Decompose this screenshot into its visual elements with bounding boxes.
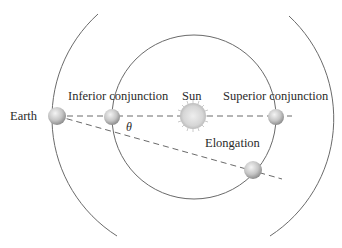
superior-conjunction-label: Superior conjunction <box>223 89 329 103</box>
elongation-diagram: Earth Inferior conjunction Sun Superior … <box>0 0 342 248</box>
sun-icon <box>180 103 206 129</box>
elongation-label: Elongation <box>205 136 261 150</box>
theta-angle-label: θ <box>126 120 132 134</box>
elongation-planet-icon <box>244 161 262 179</box>
earth-label: Earth <box>10 109 38 123</box>
earth-planet-icon <box>48 107 66 125</box>
earth-orbit-right-arc <box>270 16 334 236</box>
superior-conjunction-planet-icon <box>268 109 284 125</box>
inferior-conjunction-label: Inferior conjunction <box>68 89 169 103</box>
earth-orbit-left-arc <box>52 14 117 236</box>
inferior-conjunction-planet-icon <box>104 109 120 125</box>
sun-label: Sun <box>182 89 202 103</box>
